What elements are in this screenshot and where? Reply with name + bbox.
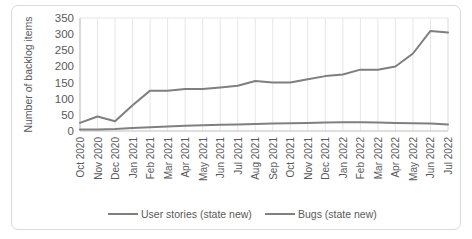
series-line-1 <box>80 31 448 123</box>
y-axis-ticks: 050100150200250300350 <box>55 12 74 137</box>
x-tick-label: Dec 2020 <box>110 137 121 180</box>
x-tick-label: Aug 2021 <box>250 137 261 180</box>
x-tick-label: Jan 2021 <box>128 137 139 179</box>
y-tick-label: 150 <box>55 77 74 89</box>
x-tick-label: Jul 2022 <box>443 137 454 175</box>
x-tick-label: Dec 2021 <box>320 137 331 180</box>
y-tick-label: 300 <box>55 28 74 40</box>
series-line-2 <box>80 122 448 129</box>
y-tick-label: 200 <box>55 60 74 72</box>
chart-card: 050100150200250300350Number of backlog i… <box>11 5 461 230</box>
x-tick-label: Feb 2022 <box>355 137 366 180</box>
plot-frame <box>80 18 448 131</box>
x-tick-label: Jan 2022 <box>338 137 349 179</box>
series-group <box>80 31 448 129</box>
y-tick-label: 100 <box>55 93 74 105</box>
x-tick-label: Nov 2021 <box>303 137 314 180</box>
x-tick-label: Oct 2020 <box>75 137 86 178</box>
x-tick-label: Apr 2021 <box>180 137 191 178</box>
x-tick-label: Nov 2020 <box>93 137 104 180</box>
y-tick-label: 250 <box>55 44 74 56</box>
y-tick-label: 50 <box>61 109 74 121</box>
x-tick-label: Jun 2022 <box>425 137 436 179</box>
x-tick-label: Apr 2022 <box>390 137 401 178</box>
gridlines <box>80 18 448 131</box>
x-tick-label: Jul 2021 <box>233 137 244 175</box>
x-axis-ticks: Oct 2020Nov 2020Dec 2020Jan 2021Feb 2021… <box>75 137 454 181</box>
x-tick-label: Mar 2021 <box>163 137 174 180</box>
x-tick-label: Mar 2022 <box>373 137 384 180</box>
y-axis-title: Number of backlog items <box>22 16 34 132</box>
x-tick-label: May 2022 <box>408 137 419 181</box>
x-tick-label: Sep 2021 <box>268 137 279 180</box>
x-tick-label: Jun 2021 <box>215 137 226 179</box>
x-tick-label: Oct 2021 <box>285 137 296 178</box>
y-tick-label: 0 <box>68 125 74 137</box>
legend-label-1: User stories (state new) <box>141 208 252 220</box>
line-chart: 050100150200250300350Number of backlog i… <box>12 6 462 231</box>
legend-label-2: Bugs (state new) <box>298 208 377 220</box>
x-tick-label: Feb 2021 <box>145 137 156 180</box>
chart-legend: User stories (state new)Bugs (state new) <box>108 208 377 220</box>
x-tick-label: May 2021 <box>198 137 209 181</box>
y-tick-label: 350 <box>55 12 74 24</box>
